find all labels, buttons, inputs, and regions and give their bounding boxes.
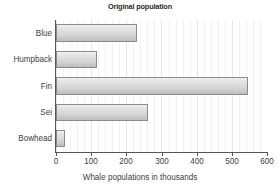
x-tick-label: 400 [182, 156, 211, 166]
bar-blue [56, 24, 137, 41]
bar-chart: Original population BlueHumpbackFinSeiBo… [0, 0, 280, 195]
x-tick-label: 100 [77, 156, 106, 166]
category-axis-labels: BlueHumpbackFinSeiBowhead [0, 20, 52, 152]
bar-fin [56, 77, 248, 94]
x-tick-label: 0 [42, 156, 71, 166]
plot-area [56, 20, 267, 152]
category-label-fin: Fin [3, 81, 52, 91]
bar-humpback [56, 51, 97, 68]
x-tick-label: 600 [253, 156, 280, 166]
chart-title: Original population [11, 2, 269, 11]
bar-sei [56, 104, 148, 121]
x-axis-ticks: 0100200300400500600 [0, 153, 280, 167]
category-label-blue: Blue [3, 28, 52, 38]
x-axis-title: Whale populations in thousands [7, 172, 273, 182]
x-tick-label: 500 [218, 156, 247, 166]
x-tick-label: 300 [147, 156, 176, 166]
x-tick-label: 200 [112, 156, 141, 166]
category-label-bowhead: Bowhead [3, 133, 52, 143]
category-label-humpback: Humpback [3, 54, 52, 64]
bar-bowhead [56, 130, 65, 147]
y-axis-line [55, 20, 56, 153]
category-label-sei: Sei [3, 107, 52, 117]
